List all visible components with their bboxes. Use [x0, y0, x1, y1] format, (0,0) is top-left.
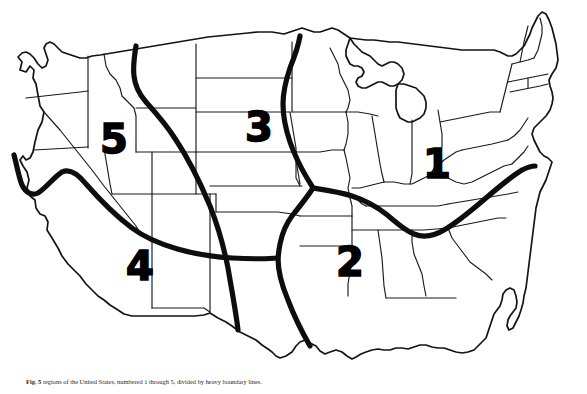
us-region-map: 5 3 1 4 2 [0, 0, 587, 394]
divider-south-central [278, 188, 313, 346]
region-label-2: 2 [336, 239, 364, 285]
state-borders [26, 18, 548, 313]
region-label-1: 1 [423, 141, 451, 187]
caption-text: regions of the United States, numbered 1… [43, 378, 262, 385]
region-label-4: 4 [126, 243, 154, 289]
region-label-5: 5 [100, 116, 128, 162]
caption-lead: Fig. 5 [26, 378, 41, 385]
region-label-3: 3 [245, 104, 273, 150]
figure-caption: Fig. 5 regions of the United States, num… [26, 378, 571, 386]
region-divider-lines [14, 36, 535, 346]
figure-container: 5 3 1 4 2 Fig. 5 regions of the United S… [0, 0, 587, 394]
